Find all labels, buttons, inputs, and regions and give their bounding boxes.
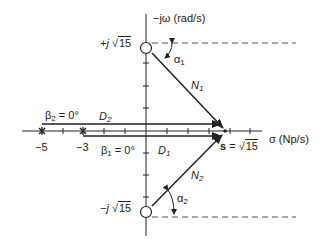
zero-upper-label: +j √15 <box>100 38 131 49</box>
vector-n1 <box>152 53 223 128</box>
horizontal-axis-label: σ (Np/s) <box>269 134 309 145</box>
vector-d1-label: D1 <box>158 145 170 158</box>
vector-n2-label: N2 <box>191 170 203 183</box>
evaluation-point-label: s = √15 <box>220 141 258 152</box>
vector-n1-label: N1 <box>191 80 203 93</box>
angle-alpha1-arc <box>165 43 172 58</box>
s-plane-diagram <box>0 0 323 250</box>
vertical-axis-label: −jω (rad/s) <box>153 13 205 24</box>
zero-upper-marker <box>141 43 152 54</box>
alpha2-label: α2 <box>177 193 188 206</box>
zero-lower-label: −j √15 <box>100 203 131 214</box>
evaluation-point-marker <box>223 129 227 133</box>
beta2-label: β2 = 0° <box>45 110 79 123</box>
vector-d2-label: D2 <box>99 111 111 124</box>
zero-lower-marker <box>141 207 152 218</box>
alpha1-label: α1 <box>174 54 185 67</box>
pole-minus5-label: −5 <box>35 142 48 153</box>
angle-alpha2-arc <box>168 190 174 214</box>
beta1-label: β1 = 0° <box>101 145 135 158</box>
pole-minus3-label: −3 <box>76 142 89 153</box>
